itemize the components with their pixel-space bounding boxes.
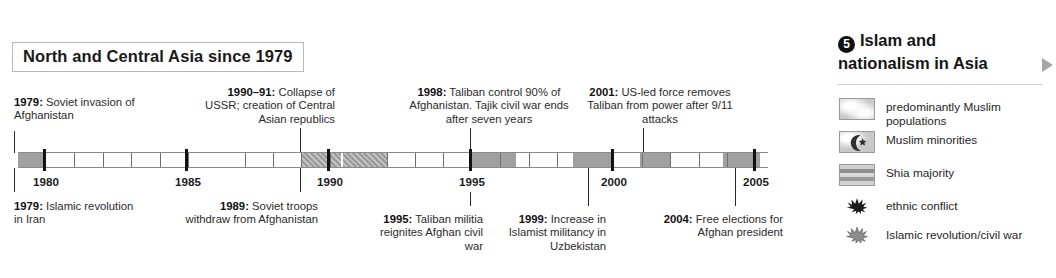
event-year-label: 1995: <box>383 213 412 225</box>
legend-item-label: Muslim minorities <box>886 131 977 147</box>
legend-item-shia-majority[interactable]: Shia majority <box>839 164 954 186</box>
swatch-predominantly-muslim <box>839 98 875 120</box>
minor-tick <box>415 153 416 167</box>
major-tick-1980 <box>43 149 46 171</box>
legend-title-text: Islam and nationalism in Asia <box>838 31 988 72</box>
legend-panel: 5Islam and nationalism in Asia predomina… <box>833 0 1056 278</box>
event-note-below-1989: 1989: Soviet troops withdraw from Afghan… <box>183 200 318 227</box>
minor-tick <box>529 153 530 167</box>
minor-tick <box>188 153 189 167</box>
minor-tick <box>160 153 161 167</box>
leader-line-1990-above <box>300 128 301 153</box>
swatch-shia-majority <box>839 164 875 186</box>
minor-tick <box>301 153 302 167</box>
event-year-label: 1979: <box>14 96 43 108</box>
minor-tick <box>500 153 501 167</box>
leader-line-2004-below <box>735 168 736 206</box>
event-note-below-1999: 1999: Increase in Islamist militancy in … <box>488 213 606 253</box>
legend-header: 5Islam and nationalism in Asia <box>838 30 1051 74</box>
minor-tick <box>557 153 558 167</box>
minor-tick <box>103 153 104 167</box>
islamic-revolution-icon <box>839 226 875 249</box>
event-note-above-1979: 1979: Soviet invasion of Afghanistan <box>14 96 164 123</box>
legend-item-islamic-revolution[interactable]: Islamic revolution/civil war <box>839 226 1022 249</box>
leader-line-2001-above <box>643 128 644 153</box>
swatch-muslim-minorities <box>839 131 875 153</box>
axis-label-1995: 1995 <box>459 175 485 188</box>
minor-tick <box>245 153 246 167</box>
minor-tick <box>387 153 388 167</box>
major-tick-1985 <box>185 149 188 171</box>
minor-tick <box>727 153 728 167</box>
minor-tick <box>642 153 643 167</box>
ethnic-conflict-icon <box>839 197 875 220</box>
legend-divider <box>838 84 1043 85</box>
legend-item-predominantly-muslim[interactable]: predominantly Muslim populations <box>839 98 1056 128</box>
triangle-right-icon[interactable] <box>1042 58 1053 72</box>
axis-label-1990: 1990 <box>317 175 343 188</box>
major-tick-1995 <box>469 149 472 171</box>
leader-line-1999-below <box>588 168 589 206</box>
timeline-bar <box>18 152 768 168</box>
event-text: Free elections for Afghan president <box>696 213 783 238</box>
event-year-label: 1990–91: <box>228 86 276 98</box>
shaded-period <box>471 153 516 167</box>
axis-label-2000: 2000 <box>601 175 627 188</box>
shaded-period <box>640 153 671 167</box>
minor-tick <box>131 153 132 167</box>
axis-label-2005: 2005 <box>743 175 769 188</box>
leader-line-1989-below <box>300 168 301 192</box>
event-year-label: 1998: <box>418 86 447 98</box>
burst-icon <box>846 226 868 244</box>
event-year-label: 1989: <box>220 200 249 212</box>
crescent-star-icon <box>840 132 875 153</box>
shaded-period <box>343 153 387 167</box>
leader-line-1995-below <box>470 192 471 206</box>
shaded-period <box>18 153 43 167</box>
event-note-below-1979: 1979: Islamic revolution in Iran <box>14 200 144 227</box>
legend-item-ethnic-conflict[interactable]: ethnic conflict <box>839 197 957 220</box>
event-note-above-1990: 1990–91: Collapse of USSR; creation of C… <box>190 86 335 126</box>
minor-tick <box>74 153 75 167</box>
shaded-period <box>301 153 341 167</box>
leader-line-1979-above <box>14 131 15 153</box>
event-year-label: 2004: <box>664 213 693 225</box>
legend-item-label: predominantly Muslim populations <box>886 98 1056 128</box>
event-text: Soviet troops withdraw from Afghanistan <box>186 200 319 225</box>
shaded-period <box>573 153 613 167</box>
minor-tick <box>670 153 671 167</box>
minor-tick <box>699 153 700 167</box>
event-note-below-1995: 1995: Taliban militia reignites Afghan c… <box>368 213 483 253</box>
minor-tick <box>330 153 331 167</box>
legend-item-muslim-minorities[interactable]: Muslim minorities <box>839 131 977 153</box>
timeline-panel: North and Central Asia since 1979 1979: … <box>0 0 822 278</box>
major-tick-1990 <box>327 149 330 171</box>
page-title: North and Central Asia since 1979 <box>12 42 304 72</box>
axis-label-1980: 1980 <box>33 175 59 188</box>
legend-item-label: ethnic conflict <box>886 197 957 213</box>
event-note-below-2004: 2004: Free elections for Afghan presiden… <box>648 213 783 240</box>
major-tick-2000 <box>611 149 614 171</box>
section-number-badge: 5 <box>838 36 855 53</box>
event-year-label: 1979: <box>14 200 43 212</box>
event-note-above-1998: 1998: Taliban control 90% of Afghanistan… <box>408 86 570 126</box>
event-year-label: 1999: <box>519 213 548 225</box>
minor-tick <box>443 153 444 167</box>
major-tick-2005 <box>753 149 756 171</box>
axis-label-1985: 1985 <box>175 175 201 188</box>
minor-tick <box>273 153 274 167</box>
leader-line-1979-below <box>14 168 15 192</box>
legend-item-label: Shia majority <box>886 164 954 180</box>
legend-title: 5Islam and nationalism in Asia <box>838 30 1024 74</box>
event-year-label: 2001: <box>589 86 618 98</box>
event-note-above-2001: 2001: US-led force removes Taliban from … <box>580 86 740 126</box>
legend-item-label: Islamic revolution/civil war <box>886 226 1022 242</box>
burst-icon <box>846 197 868 215</box>
